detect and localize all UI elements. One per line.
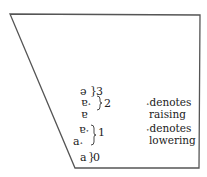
vowel-raised-turned-a: ɐ˔ [81, 97, 91, 108]
vowel-quadrilateral [0, 0, 207, 177]
group-label-3: 3 [96, 86, 103, 97]
group-label-2: 2 [104, 98, 111, 109]
vowel-turned-a: ɐ [81, 109, 88, 120]
brace-2 [97, 96, 102, 110]
brace-1 [91, 125, 96, 145]
vowel-lowered-turned-a: ɐ˕ [79, 124, 89, 135]
group-label-0: 0 [93, 152, 100, 163]
vowel-raised-a: a˔ [73, 136, 83, 147]
group-label-1: 1 [98, 127, 105, 138]
legend-raising: ˔denotes raising [146, 96, 191, 120]
legend-lowering: ˕denotes lowering [146, 122, 196, 146]
vowel-a: a [80, 152, 87, 163]
